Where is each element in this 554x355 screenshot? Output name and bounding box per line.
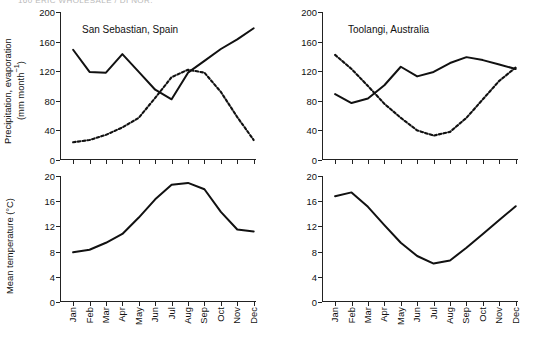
x-tick-mark xyxy=(352,160,353,164)
x-tick-label-aug: Aug xyxy=(183,307,193,324)
x-tick-label-nov: Nov xyxy=(494,307,504,324)
x-tick-label-jan: Jan xyxy=(330,307,340,322)
x-tick-mark xyxy=(172,302,173,306)
x-axis-month-labels: JanFebMarAprMayJunJulAugSepOctNovDec xyxy=(322,307,518,347)
x-tick-mark xyxy=(450,160,451,164)
x-tick-label-oct: Oct xyxy=(216,307,226,322)
y-tick-label: 40 xyxy=(45,125,55,136)
x-tick-label-oct: Oct xyxy=(478,307,488,322)
x-tick-label-sep: Sep xyxy=(461,307,471,324)
x-tick-label-feb: Feb xyxy=(85,307,95,323)
x-tick-label-mar: Mar xyxy=(363,307,373,323)
x-tick-mark xyxy=(384,302,385,306)
x-tick-mark xyxy=(499,160,500,164)
x-tick-mark xyxy=(90,302,91,306)
y-tick-label: 20 xyxy=(307,171,317,182)
y-tick-label: 160 xyxy=(39,36,55,47)
x-tick-mark xyxy=(352,302,353,306)
x-tick-mark xyxy=(204,302,205,306)
x-tick-label-jun: Jun xyxy=(412,307,422,322)
x-tick-mark xyxy=(73,302,74,306)
x-tick-label-nov: Nov xyxy=(232,307,242,324)
x-tick-mark xyxy=(188,160,189,164)
x-tick-mark xyxy=(254,160,255,164)
y-tick-label: 0 xyxy=(312,155,317,166)
series-line-evaporation xyxy=(73,70,254,143)
x-tick-label-jan: Jan xyxy=(68,307,78,322)
series-layer xyxy=(60,176,256,302)
y-tick-label: 8 xyxy=(312,246,317,257)
x-tick-label-apr: Apr xyxy=(117,307,127,322)
series-line-precipitation xyxy=(73,28,254,99)
x-tick-mark xyxy=(450,302,451,306)
x-tick-mark xyxy=(483,302,484,306)
x-tick-mark xyxy=(139,160,140,164)
x-tick-mark xyxy=(122,302,123,306)
series-line-mean-temperature xyxy=(73,183,254,252)
x-tick-mark xyxy=(237,302,238,306)
x-tick-mark xyxy=(335,160,336,164)
x-tick-mark xyxy=(106,160,107,164)
x-tick-label-may: May xyxy=(134,307,144,325)
y-tick-label: 80 xyxy=(45,95,55,106)
y-tick-label: 12 xyxy=(45,221,55,232)
x-tick-mark xyxy=(483,160,484,164)
x-tick-mark xyxy=(401,160,402,164)
y-tick-label: 120 xyxy=(301,66,317,77)
chart-panel-bottom-right: 048121620JanFebMarAprMayJunJulAugSepOctN… xyxy=(322,176,518,302)
y-tick-label: 8 xyxy=(50,246,55,257)
series-layer xyxy=(322,176,518,302)
x-tick-mark xyxy=(466,160,467,164)
x-tick-mark xyxy=(384,160,385,164)
x-tick-mark xyxy=(516,302,517,306)
precipitation-axis-title: Precipitation, evaporation(mm month−1) xyxy=(2,16,26,166)
x-tick-mark xyxy=(90,160,91,164)
chart-panel-bottom-left: 048121620JanFebMarAprMayJunJulAugSepOctN… xyxy=(60,176,256,302)
x-tick-mark xyxy=(73,160,74,164)
y-tick-mark xyxy=(56,160,60,161)
y-tick-label: 4 xyxy=(50,271,55,282)
y-tick-label: 0 xyxy=(50,297,55,308)
x-tick-label-jul: Jul xyxy=(167,307,177,319)
series-layer xyxy=(322,12,518,160)
x-tick-mark xyxy=(221,302,222,306)
x-tick-mark xyxy=(368,302,369,306)
series-line-evaporation xyxy=(335,55,516,136)
x-tick-mark xyxy=(188,302,189,306)
x-tick-label-dec: Dec xyxy=(249,307,259,324)
x-tick-mark xyxy=(254,302,255,306)
x-tick-label-aug: Aug xyxy=(445,307,455,324)
y-tick-mark xyxy=(318,302,322,303)
chart-panel-top-left: 04080120160200San Sebastian, Spain xyxy=(60,12,256,160)
x-tick-mark xyxy=(122,160,123,164)
x-tick-mark xyxy=(434,302,435,306)
x-tick-mark xyxy=(434,160,435,164)
y-tick-label: 0 xyxy=(312,297,317,308)
x-tick-mark xyxy=(417,302,418,306)
y-tick-label: 160 xyxy=(301,36,317,47)
x-tick-mark xyxy=(155,160,156,164)
y-tick-label: 120 xyxy=(39,66,55,77)
x-tick-label-jun: Jun xyxy=(150,307,160,322)
y-tick-label: 16 xyxy=(307,196,317,207)
y-tick-label: 200 xyxy=(301,7,317,18)
y-tick-label: 12 xyxy=(307,221,317,232)
x-tick-label-feb: Feb xyxy=(347,307,357,323)
temperature-axis-title: Mean temperature (°C) xyxy=(4,182,18,310)
y-tick-label: 20 xyxy=(45,171,55,182)
y-tick-label: 40 xyxy=(307,125,317,136)
x-tick-mark xyxy=(237,160,238,164)
x-tick-mark xyxy=(172,160,173,164)
x-tick-mark xyxy=(368,160,369,164)
x-tick-mark xyxy=(499,302,500,306)
x-tick-mark xyxy=(139,302,140,306)
x-axis-month-labels: JanFebMarAprMayJunJulAugSepOctNovDec xyxy=(60,307,256,347)
y-tick-label: 80 xyxy=(307,95,317,106)
x-tick-label-sep: Sep xyxy=(199,307,209,324)
y-axis-labels: 048121620 xyxy=(26,176,60,302)
x-tick-mark xyxy=(516,160,517,164)
y-tick-label: 4 xyxy=(312,271,317,282)
series-line-mean-temperature xyxy=(335,192,516,263)
x-tick-label-jul: Jul xyxy=(429,307,439,319)
x-tick-label-dec: Dec xyxy=(511,307,521,324)
